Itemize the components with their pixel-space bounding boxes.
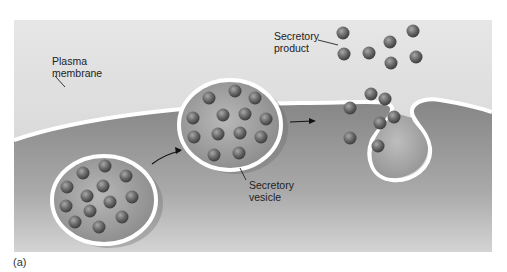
secretory-vesicle-label: Secretoryvesicle <box>249 179 294 203</box>
secretory-product-label: Secretoryproduct <box>274 30 319 54</box>
diagram-canvas <box>0 0 507 272</box>
panel-label: (a) <box>13 256 26 268</box>
plasma-membrane-label: Plasmamembrane <box>52 55 102 79</box>
exocytosis-diagram: Plasmamembrane Secretoryproduct Secretor… <box>0 0 507 272</box>
